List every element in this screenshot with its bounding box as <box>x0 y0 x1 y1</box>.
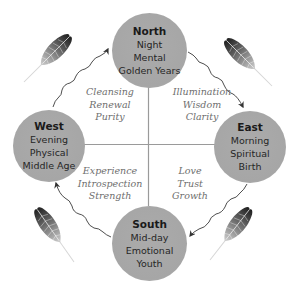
medicine-wheel-diagram: North Night Mental Golden Years West Eve… <box>0 0 298 289</box>
quadrant-north-east: Illumination Wisdom Clarity <box>157 86 247 124</box>
north-line-1: Night <box>137 38 163 51</box>
east-line-3: Birth <box>239 160 262 173</box>
north-title: North <box>133 25 167 38</box>
south-line-3: Youth <box>136 257 162 270</box>
west-line-2: Physical <box>30 146 69 159</box>
east-line-1: Morning <box>231 134 269 147</box>
south-line-1: Mid-day <box>131 231 169 244</box>
west-title: West <box>34 120 64 133</box>
north-line-2: Mental <box>133 51 165 64</box>
quadrant-south-west: Experience Introspection Strength <box>65 165 155 203</box>
feather-icon-bottom-right <box>204 204 257 265</box>
south-title: South <box>132 218 167 231</box>
quadrant-south-east: Love Trust Growth <box>145 165 235 203</box>
south-circle: South Mid-day Emotional Youth <box>112 206 187 281</box>
quadrant-se-line-1: Love <box>145 165 235 178</box>
quadrant-ne-line-3: Clarity <box>157 111 247 124</box>
quadrant-sw-line-3: Strength <box>65 190 155 203</box>
quadrant-sw-line-1: Experience <box>65 165 155 178</box>
quadrant-nw-line-2: Renewal <box>65 99 155 112</box>
quadrant-se-line-3: Growth <box>145 190 235 203</box>
feather-icon-top-right <box>220 34 277 91</box>
west-line-1: Evening <box>30 133 68 146</box>
feather-icon-bottom-left <box>30 204 81 267</box>
east-line-2: Spiritual <box>230 147 269 160</box>
feather-icon-top-left <box>18 30 75 87</box>
quadrant-ne-line-1: Illumination <box>157 86 247 99</box>
north-line-3: Golden Years <box>119 64 181 77</box>
south-line-2: Emotional <box>126 244 174 257</box>
north-circle: North Night Mental Golden Years <box>112 13 187 88</box>
quadrant-se-line-2: Trust <box>145 178 235 191</box>
quadrant-nw-line-3: Purity <box>65 111 155 124</box>
quadrant-ne-line-2: Wisdom <box>157 99 247 112</box>
quadrant-north-west: Cleansing Renewal Purity <box>65 86 155 124</box>
quadrant-nw-line-1: Cleansing <box>65 86 155 99</box>
quadrant-sw-line-2: Introspection <box>65 178 155 191</box>
